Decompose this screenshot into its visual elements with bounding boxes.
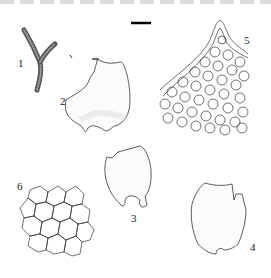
figure-2-leaf bbox=[65, 55, 130, 132]
figure-label-4: 4 bbox=[250, 242, 256, 253]
figure-1-shoot bbox=[24, 30, 55, 90]
figure-5-leaf-apex-cells bbox=[160, 20, 249, 135]
figure-label-3: 3 bbox=[131, 213, 137, 224]
figure-label-5: 5 bbox=[244, 35, 250, 46]
figure-label-6: 6 bbox=[17, 181, 23, 192]
illustration-plate: 1 2 3 4 5 6 bbox=[0, 0, 271, 278]
figure-label-1: 1 bbox=[18, 58, 24, 69]
figure-3-leaf bbox=[105, 146, 151, 207]
figure-4-leaf bbox=[191, 183, 246, 254]
drawings bbox=[0, 0, 271, 278]
figure-label-2: 2 bbox=[60, 96, 66, 107]
figure-6-cell-network bbox=[20, 186, 94, 256]
